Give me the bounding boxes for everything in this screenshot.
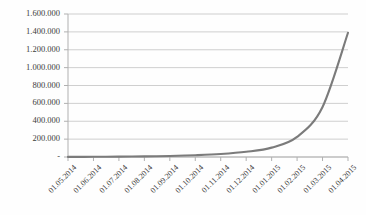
y-axis-tick-label: 600.000	[0, 98, 60, 107]
y-axis-tick-label: 200.000	[0, 134, 60, 143]
series-line-wachstum	[68, 33, 348, 157]
y-axis-tick-label: 1.400.000	[0, 27, 60, 36]
y-axis-tick-label: 1.600.000	[0, 9, 60, 18]
y-axis-tick-label: 1.200.000	[0, 45, 60, 54]
y-axis-tick-label: -	[0, 152, 60, 161]
exponential-growth-chart: -200.000400.000600.000800.0001.000.0001.…	[0, 0, 366, 215]
y-axis-tick-label: 800.000	[0, 81, 60, 90]
y-axis-tick-label: 1.000.000	[0, 63, 60, 72]
gridlines	[68, 14, 348, 157]
y-axis-ticks	[64, 14, 68, 157]
y-axis-tick-label: 400.000	[0, 116, 60, 125]
